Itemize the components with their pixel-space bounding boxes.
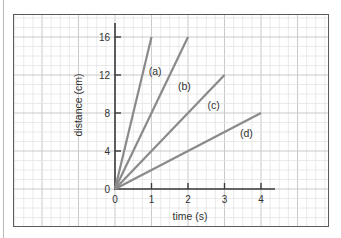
x-axis-label: time (s) xyxy=(173,210,208,222)
y-axis-label: distance (cm) xyxy=(72,73,84,136)
series-label-d: (d) xyxy=(240,127,253,139)
y-tick-label: 4 xyxy=(104,146,110,157)
distance-time-chart: 048121601234 (a)(b)(c)(d) time (s) dista… xyxy=(0,0,341,238)
x-tick-label: 3 xyxy=(222,194,228,205)
x-tick-label: 0 xyxy=(112,194,118,205)
x-tick-label: 2 xyxy=(185,194,191,205)
y-tick-label: 8 xyxy=(104,108,110,119)
y-tick-label: 12 xyxy=(99,70,111,81)
graph-paper-grid xyxy=(14,15,328,226)
x-tick-label: 4 xyxy=(258,194,264,205)
series-label-c: (c) xyxy=(207,99,219,111)
series-label-b: (b) xyxy=(178,80,191,92)
y-tick-label: 0 xyxy=(104,184,110,195)
y-tick-label: 16 xyxy=(99,32,111,43)
x-tick-label: 1 xyxy=(149,194,155,205)
series-label-a: (a) xyxy=(149,65,162,77)
